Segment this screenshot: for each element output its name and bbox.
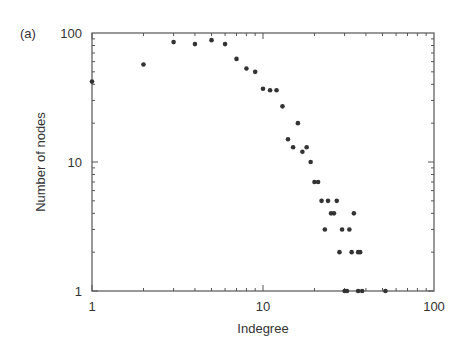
data-point — [319, 199, 324, 204]
data-point — [300, 149, 305, 154]
data-point — [268, 88, 273, 93]
data-point — [234, 57, 239, 62]
data-point — [352, 211, 357, 216]
y-tick-label: 100 — [60, 26, 82, 41]
x-tick-label: 10 — [256, 299, 270, 314]
data-point — [308, 160, 313, 165]
data-point — [291, 145, 296, 150]
data-point — [347, 227, 352, 232]
data-point — [296, 121, 301, 126]
scatter-plot — [0, 0, 476, 358]
x-tick-label: 100 — [423, 299, 445, 314]
data-point — [274, 88, 279, 93]
data-point — [223, 42, 228, 47]
data-point — [90, 79, 95, 84]
data-point — [261, 86, 266, 91]
data-point — [244, 66, 249, 71]
data-point — [286, 137, 291, 142]
data-point — [304, 145, 309, 150]
data-point — [316, 180, 321, 185]
data-point — [193, 42, 198, 47]
data-point — [349, 250, 354, 255]
data-points — [90, 38, 388, 293]
data-point — [332, 211, 337, 216]
data-point — [326, 199, 331, 204]
y-tick-label: 10 — [68, 155, 82, 170]
data-point — [253, 70, 258, 75]
data-point — [360, 289, 365, 294]
data-point — [171, 40, 176, 45]
data-point — [358, 250, 363, 255]
panel-label: (a) — [20, 26, 36, 41]
data-point — [337, 250, 342, 255]
data-point — [323, 227, 328, 232]
plot-axes — [92, 33, 434, 291]
data-point — [356, 289, 361, 294]
data-point — [383, 289, 388, 294]
data-point — [345, 289, 350, 294]
data-point — [141, 62, 146, 67]
x-axis-label: Indegree — [237, 321, 288, 336]
data-point — [209, 38, 214, 43]
y-tick-label: 1 — [75, 284, 82, 299]
data-point — [280, 104, 285, 109]
plot-frame — [92, 33, 434, 291]
data-point — [340, 227, 345, 232]
data-point — [334, 199, 339, 204]
x-tick-label: 1 — [88, 299, 95, 314]
y-axis-label: Number of nodes — [33, 112, 48, 212]
